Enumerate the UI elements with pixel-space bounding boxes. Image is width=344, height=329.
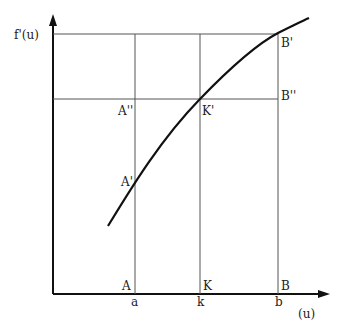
point-label-B-double-prime: B'': [281, 89, 296, 103]
tick-label-b: b: [275, 295, 283, 309]
diagram-canvas: f'(u) (u) a k b A K B A' K' B' A'' B'': [0, 0, 344, 329]
x-axis-label: (u): [298, 307, 315, 321]
point-label-A-double-prime: A'': [117, 104, 133, 118]
x-axis-arrow-icon: [318, 290, 330, 298]
point-label-B-prime: B': [281, 36, 293, 50]
tick-label-k: k: [197, 295, 205, 309]
guide-lines: [53, 34, 278, 294]
point-label-B: B: [281, 279, 290, 293]
curve-f-prime: [108, 18, 309, 226]
y-axis-label: f'(u): [14, 28, 39, 42]
point-label-K: K: [203, 279, 213, 293]
tick-label-a: a: [131, 295, 138, 309]
point-label-K-prime: K': [202, 104, 214, 118]
point-label-A: A: [121, 279, 131, 293]
point-label-A-prime: A': [120, 175, 133, 189]
y-axis: [49, 14, 57, 294]
y-axis-arrow-icon: [49, 14, 57, 26]
